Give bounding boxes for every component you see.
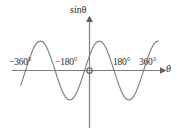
x-tick-label-180: 180° bbox=[113, 58, 130, 68]
x-axis-label: θ bbox=[166, 64, 171, 74]
y-axis-label: sinθ bbox=[70, 5, 86, 15]
sine-function-chart: sinθ θ −360° −180° 180° 360° bbox=[0, 0, 177, 137]
x-tick-label-minus-360: −360° bbox=[9, 58, 31, 68]
x-tick-label-360: 360° bbox=[139, 58, 156, 68]
x-tick-label-minus-180: −180° bbox=[55, 58, 77, 68]
chart-plot-area bbox=[0, 0, 177, 137]
